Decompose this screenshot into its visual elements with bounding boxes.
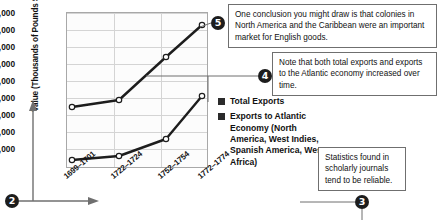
callout-box-3: Statistics found in scholarly journals t… bbox=[318, 147, 406, 191]
callout-badge-4: 4 bbox=[258, 69, 272, 83]
legend-item-atlantic-economy: Exports to Atlantic Economy (North Ameri… bbox=[218, 111, 330, 168]
legend-label: Total Exports bbox=[230, 96, 284, 107]
data-point bbox=[69, 104, 74, 109]
callout-box-5: One conclusion you might draw is that co… bbox=[228, 4, 437, 48]
legend-item-total-exports: Total Exports bbox=[218, 96, 330, 107]
series-line-total-exports bbox=[72, 25, 202, 107]
data-point bbox=[163, 136, 168, 141]
data-point bbox=[163, 54, 168, 59]
legend-swatch-icon bbox=[218, 113, 225, 120]
data-point bbox=[116, 153, 121, 158]
legend: Total Exports Exports to Atlantic Econom… bbox=[218, 96, 330, 172]
legend-swatch-icon bbox=[218, 98, 225, 105]
data-point bbox=[69, 157, 74, 162]
chart: Value (Thousands of Pounds Sterling) 9,0… bbox=[0, 0, 225, 220]
callout-badge-2: 2 bbox=[5, 194, 19, 208]
series-layer bbox=[0, 0, 225, 220]
legend-label: Exports to Atlantic Economy (North Ameri… bbox=[230, 111, 330, 168]
callout-badge-3: 3 bbox=[355, 195, 369, 209]
data-point bbox=[116, 97, 121, 102]
callout-box-4: Note that both total exports and exports… bbox=[272, 52, 437, 96]
figure-root: Value (Thousands of Pounds Sterling) 9,0… bbox=[0, 0, 439, 220]
data-point bbox=[199, 93, 204, 98]
data-point bbox=[199, 22, 204, 27]
callout-badge-5: 5 bbox=[211, 16, 225, 30]
